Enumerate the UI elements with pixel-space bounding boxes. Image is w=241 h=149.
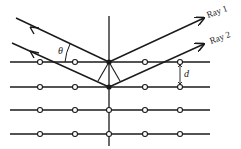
reflected-ray-2 xyxy=(109,44,204,87)
spacing-label: d xyxy=(184,68,190,79)
angle-label: θ xyxy=(58,45,63,56)
angle-arc xyxy=(65,44,70,62)
ray-1-label: Ray 1 xyxy=(205,3,228,20)
ray-2-label: Ray 2 xyxy=(208,29,231,46)
atoms xyxy=(38,60,183,137)
reflected-ray-1 xyxy=(109,18,204,62)
incident-ray-1-arrow-icon xyxy=(30,27,39,34)
bragg-diagram: θ d Ray 1 Ray 2 xyxy=(0,0,241,149)
spacing-indicator xyxy=(178,65,182,84)
